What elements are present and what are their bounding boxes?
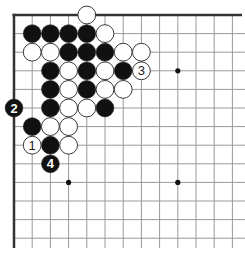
white-stone — [60, 118, 78, 136]
black-stone — [114, 62, 132, 80]
white-stone — [78, 6, 96, 24]
star-point — [175, 68, 180, 73]
white-stone — [96, 25, 114, 43]
white-stone — [114, 81, 132, 99]
star-point — [66, 180, 71, 185]
move-number-label: 2 — [10, 101, 17, 116]
white-stone — [60, 81, 78, 99]
white-stone — [114, 43, 132, 61]
black-stone — [42, 62, 60, 80]
white-stone — [42, 43, 60, 61]
black-stone — [60, 25, 78, 43]
white-stone — [96, 62, 114, 80]
black-stone — [78, 81, 96, 99]
black-stone — [42, 81, 60, 99]
white-stone — [60, 136, 78, 154]
white-stone — [96, 81, 114, 99]
white-stone: 1 — [23, 136, 41, 154]
black-stone — [78, 43, 96, 61]
black-stone — [78, 62, 96, 80]
white-stone: 3 — [133, 62, 151, 80]
white-stone — [78, 99, 96, 117]
black-stone — [96, 99, 114, 117]
black-stone — [96, 43, 114, 61]
white-stone — [23, 43, 41, 61]
black-stone — [42, 136, 60, 154]
white-stone — [60, 99, 78, 117]
go-board: 3214 — [0, 0, 245, 256]
black-stone — [23, 25, 41, 43]
move-number-label: 1 — [29, 138, 36, 153]
black-stone — [42, 25, 60, 43]
black-stone — [23, 118, 41, 136]
black-stone — [60, 43, 78, 61]
move-number-label: 4 — [47, 156, 55, 171]
black-stone: 4 — [42, 155, 60, 173]
star-point — [175, 180, 180, 185]
black-stone — [42, 99, 60, 117]
move-number-label: 3 — [138, 63, 145, 78]
white-stone — [42, 118, 60, 136]
white-stone — [60, 62, 78, 80]
black-stone — [78, 25, 96, 43]
black-stone: 2 — [5, 99, 23, 117]
white-stone — [133, 43, 151, 61]
